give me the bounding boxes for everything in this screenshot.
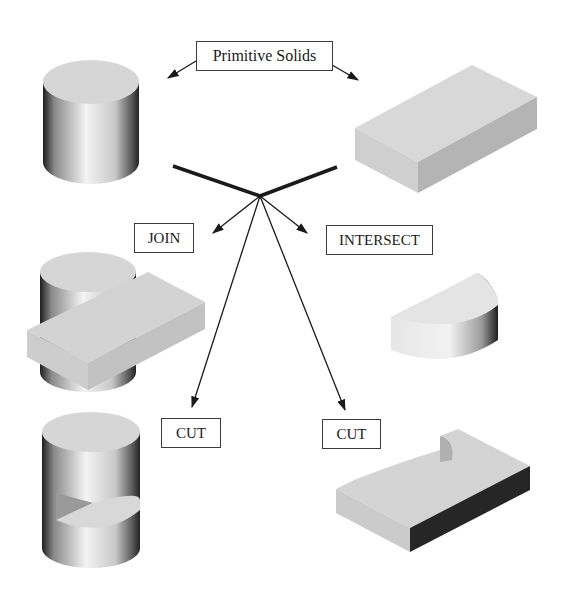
primitive-cylinder — [43, 60, 139, 184]
cut-label-right: CUT — [322, 419, 381, 449]
intersect-label: INTERSECT — [326, 225, 433, 255]
combine-line-left — [173, 166, 260, 196]
cut-label-left: CUT — [161, 418, 221, 448]
join-result-solid — [27, 252, 205, 392]
intersect-result-solid — [391, 273, 498, 359]
cut-cylinder-result-solid — [42, 412, 140, 568]
combine-line-right — [260, 167, 337, 196]
primitive-solids-label: Primitive Solids — [196, 41, 333, 71]
arrow-to-block — [332, 65, 358, 80]
arrow-to-cylinder — [168, 61, 196, 78]
primitive-block — [355, 65, 537, 193]
arrow-join — [213, 196, 260, 233]
solid-modeling-diagram — [0, 0, 569, 593]
join-label: JOIN — [134, 223, 194, 253]
